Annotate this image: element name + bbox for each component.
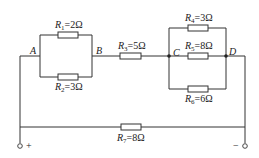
label-r5: R5=8Ω <box>185 41 213 53</box>
terminal-plus <box>18 144 23 149</box>
node-label-b: B <box>96 46 102 56</box>
label-r4: R4=3Ω <box>185 13 213 25</box>
resistor-r5 <box>188 53 208 59</box>
circuit-diagram: A B C D R1=2Ω R2=3Ω R3=5Ω R4=3Ω R5=8Ω R6… <box>0 0 259 158</box>
terminal-plus-label: + <box>26 141 32 151</box>
node-label-c: C <box>173 48 180 58</box>
junction-d <box>224 54 228 58</box>
node-label-d: D <box>229 47 236 57</box>
label-r6: R6=6Ω <box>185 94 213 106</box>
resistor-r2 <box>58 74 78 80</box>
resistor-r4 <box>188 25 208 31</box>
terminal-minus <box>243 144 248 149</box>
left-wire <box>20 56 40 143</box>
label-r7: R7=8Ω <box>117 133 145 145</box>
resistor-r6 <box>188 86 208 92</box>
resistor-r3 <box>120 53 141 59</box>
node-label-a: A <box>30 46 36 56</box>
resistor-r1 <box>58 32 78 38</box>
terminal-minus-label: − <box>233 141 239 151</box>
junction-c <box>167 54 171 58</box>
right-wire <box>226 56 245 143</box>
label-r2: R2=3Ω <box>55 82 83 94</box>
label-r3: R3=5Ω <box>118 41 146 53</box>
resistor-r7 <box>121 124 141 130</box>
label-r1: R1=2Ω <box>55 20 83 32</box>
